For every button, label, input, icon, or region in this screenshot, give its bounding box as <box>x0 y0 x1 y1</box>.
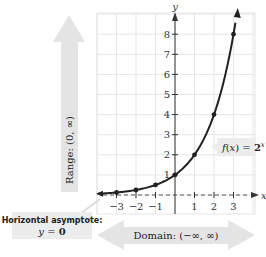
y-tick-label: 2 <box>164 149 170 160</box>
y-tick-label: 4 <box>164 109 170 120</box>
asymptote-label-box: Horizontal asymptote:y = 0 <box>2 199 103 239</box>
data-point <box>212 112 217 117</box>
asymptote-title: Horizontal asymptote: <box>2 216 103 225</box>
data-point <box>173 173 178 178</box>
y-tick-label: 6 <box>164 69 170 80</box>
x-tick-label: −2 <box>129 201 144 212</box>
data-point <box>114 190 119 195</box>
data-point <box>231 32 236 37</box>
asymptote-equation: y = 0 <box>37 226 65 237</box>
x-tick-label: 3 <box>230 201 236 212</box>
y-tick-label: 8 <box>164 29 170 40</box>
domain-label: Domain: (−∞, ∞) <box>134 230 219 241</box>
data-point <box>192 152 197 157</box>
function-label-box: f(x) = 2x <box>211 138 265 156</box>
x-tick-label: −1 <box>148 201 163 212</box>
exponential-chart: Range: (0, ∞)Domain: (−∞, ∞)xy−3−2−11231… <box>0 0 266 257</box>
x-tick-label: 2 <box>211 201 217 212</box>
y-tick-label: 3 <box>164 129 170 140</box>
y-tick-label: 7 <box>164 49 170 60</box>
data-point <box>134 188 139 193</box>
x-tick-label: −3 <box>109 201 124 212</box>
data-point <box>153 183 158 188</box>
function-label: f(x) = 2x <box>221 141 265 153</box>
y-axis-label: y <box>171 1 178 12</box>
x-axis-label: x <box>261 190 266 201</box>
x-tick-label: 1 <box>191 201 197 212</box>
range-label: Range: (0, ∞) <box>64 116 75 184</box>
y-tick-label: 5 <box>164 89 170 100</box>
